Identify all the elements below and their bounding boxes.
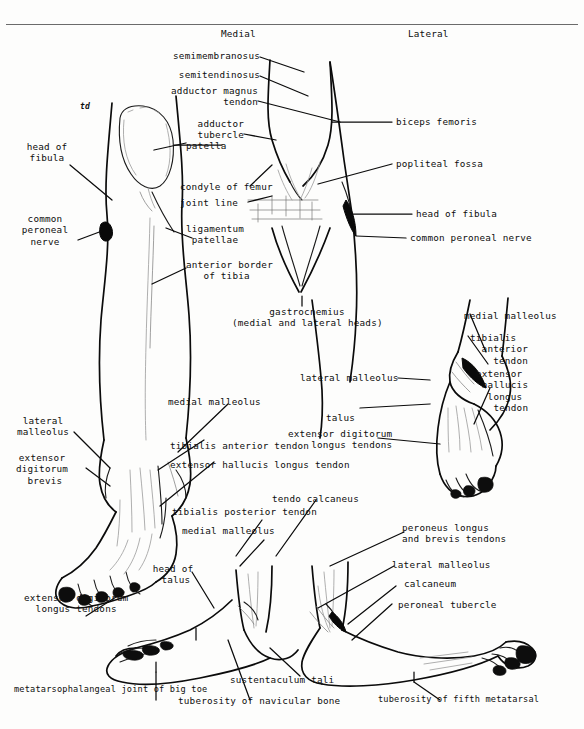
label-extensor-digitorum-brevis: extensor digitorum brevis — [6, 452, 78, 486]
label-semitendinosus: semitendinosus — [100, 69, 260, 80]
label-extensor-hallucis-longus-tendon-dorsum: extensor hallucis longus tendon — [476, 368, 528, 414]
label-head-of-talus: head of talus — [140, 563, 206, 586]
label-tuberosity-of-fifth-metatarsal: tuberosity of fifth metatarsal — [378, 694, 539, 705]
label-gastrocnemius: gastrocnemius (medial and lateral heads) — [232, 306, 382, 329]
label-talus: talus — [326, 412, 355, 423]
orientation-label-lateral: Lateral — [408, 28, 449, 39]
label-head-of-fibula-right: head of fibula — [416, 208, 497, 219]
label-biceps-femoris: biceps femoris — [396, 116, 477, 127]
label-medial-malleolus-bottom: medial malleolus — [182, 525, 275, 536]
label-medial-malleolus-ankle: medial malleolus — [168, 396, 261, 407]
label-lateral-malleolus-dorsum: lateral malleolus — [300, 372, 399, 383]
top-divider-rule — [6, 24, 578, 25]
label-tibialis-anterior-tendon-dorsum: tibialis anterior tendon — [470, 332, 528, 366]
label-semimembranosus: semimembranosus — [100, 50, 260, 61]
orientation-label-medial: Medial — [221, 28, 256, 39]
label-common-peroneal-nerve-right: common peroneal nerve — [410, 232, 532, 243]
label-condyle-of-femur: condyle of femur — [180, 181, 273, 192]
label-calcaneum: calcaneum — [404, 578, 456, 589]
label-metatarsophalangeal-joint-of-big-toe: metatarsophalangeal joint of big toe — [14, 684, 207, 695]
label-tuberosity-of-navicular-bone: tuberosity of navicular bone — [178, 695, 340, 706]
label-medial-malleolus-dorsum: medial malleolus — [464, 310, 557, 321]
label-tibialis-anterior-tendon-ankle: tibialis anterior tendon — [170, 440, 309, 451]
label-ligamentum-patellae: ligamentum patellae — [186, 223, 244, 246]
label-adductor-tubercle: adductor tubercle — [120, 118, 244, 141]
label-popliteal-fossa: popliteal fossa — [396, 158, 483, 169]
label-head-of-fibula-left: head of fibula — [12, 141, 82, 164]
anatomy-plate: Medial Lateral td semimembranosus semite… — [0, 0, 584, 729]
label-lateral-malleolus-bottom: lateral malleolus — [392, 559, 491, 570]
label-anterior-border-of-tibia: anterior border of tibia — [186, 259, 273, 282]
label-peroneal-tubercle: peroneal tubercle — [398, 599, 497, 610]
left-anterior-leg-drawing — [100, 96, 191, 440]
label-common-peroneal-nerve-left: common peroneal nerve — [8, 213, 82, 247]
label-adductor-magnus-tendon: adductor magnus tendon — [100, 85, 258, 108]
label-lateral-malleolus-left: lateral malleolus — [10, 415, 76, 438]
label-extensor-digitorum-longus-tendons-left: extensor digitorum longus tendons — [24, 592, 128, 615]
label-sustentaculum-tali: sustentaculum tali — [230, 674, 334, 685]
script-mark-td: td — [80, 101, 90, 112]
label-tendo-calcaneus: tendo calcaneus — [272, 493, 359, 504]
label-tibialis-posterior-tendon: tibialis posterior tendon — [172, 506, 317, 517]
label-joint-line: joint line — [180, 197, 238, 208]
label-extensor-hallucis-longus-tendon-ankle: extensor hallucis longus tendon — [170, 459, 350, 470]
label-peroneus-longus-and-brevis-tendons: peroneus longus and brevis tendons — [402, 522, 506, 545]
label-patella: patella — [186, 140, 227, 151]
